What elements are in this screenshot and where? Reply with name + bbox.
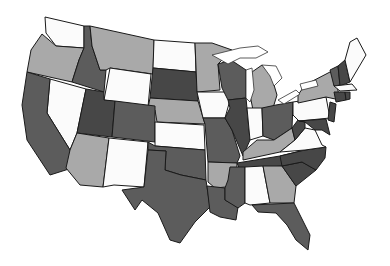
state-ri: Rhode Island [345, 92, 350, 100]
state-sd: South Dakota [150, 68, 198, 101]
state-nj: New Jersey [328, 102, 336, 122]
state-ks: Kansas [155, 122, 205, 150]
state-co: Colorado [112, 101, 155, 142]
state-in: Indiana [247, 108, 263, 140]
state-nd: North Dakota [153, 40, 196, 72]
state-ct: Connecticut [334, 92, 346, 102]
state-nm: New Mexico [103, 138, 148, 187]
state-mt: Montana [90, 26, 154, 74]
state-ne: Nebraska [148, 98, 205, 124]
us-map-svg: WashingtonOregonIdahoMontanaWyomingNorth… [0, 0, 390, 266]
state-fl: Florida [252, 203, 310, 250]
state-me: Maine [345, 38, 366, 82]
us-map: WashingtonOregonIdahoMontanaWyomingNorth… [0, 0, 390, 266]
state-ia: Iowa [197, 92, 230, 118]
